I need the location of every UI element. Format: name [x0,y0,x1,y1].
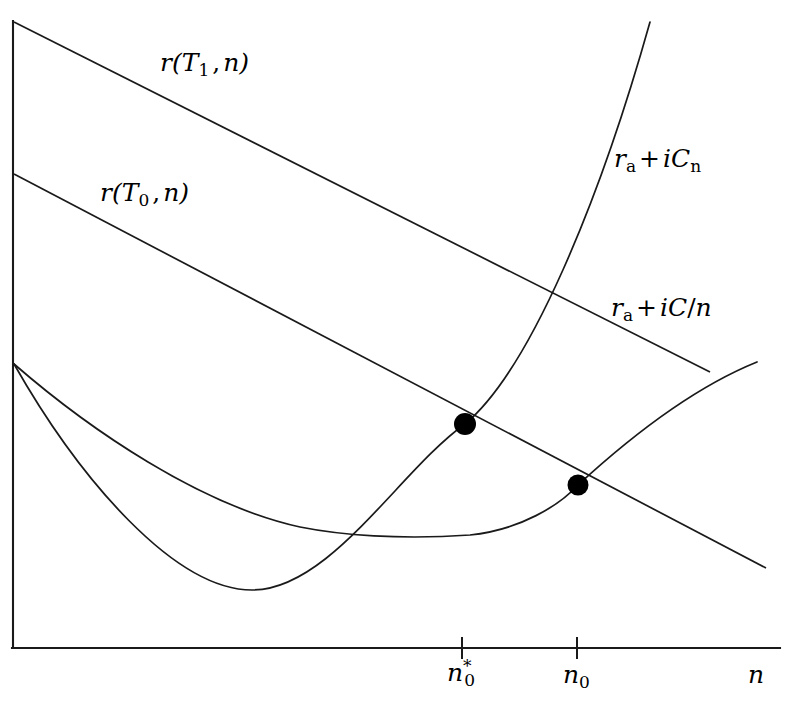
x-axis-label-text: n [748,660,764,689]
tick-label-n0-text: n0 [563,660,590,689]
curve-label-ra-plus-iCn: ra+iCn [614,146,701,171]
caption-sliver [0,0,785,2]
curve-label-r-T0-n-text: r(T0,n) [100,178,189,207]
axes-group [12,21,780,648]
figure-root: r(T1,n) r(T0,n) ra+iCn ra+iC/n n*0 n0 n [0,0,785,715]
curve-label-r-T1-n: r(T1,n) [160,50,249,75]
curve-label-ra-plus-iC-over-n-text: ra+iC/n [611,293,712,322]
tick-label-n0: n0 [563,662,590,687]
marker-n0-star [454,413,476,435]
tick-label-n0-star: n*0 [447,660,475,685]
intersection-markers [454,413,589,496]
marker-n0 [568,475,589,496]
x-axis-label: n [748,662,764,687]
curve-label-ra-plus-iCn-text: ra+iCn [614,144,701,173]
plot-canvas [0,0,785,715]
curve-r-T0-n [14,174,766,568]
curve-ra-plus-iC-over-n [14,362,757,537]
curve-label-r-T1-n-text: r(T1,n) [160,48,249,77]
curve-label-r-T0-n: r(T0,n) [100,180,189,205]
tick-label-n0-star-text: n*0 [447,658,475,687]
curve-label-ra-plus-iC-over-n: ra+iC/n [611,295,712,320]
